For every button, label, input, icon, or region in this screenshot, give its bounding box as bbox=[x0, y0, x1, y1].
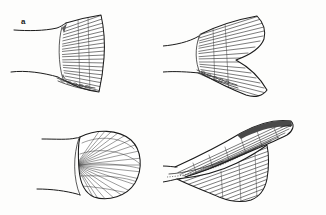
heterocercal-fin-drawing bbox=[163, 107, 326, 215]
forked-fin-drawing bbox=[163, 0, 326, 108]
rounded-fin-drawing bbox=[0, 107, 163, 215]
panel-heterocercal-caudal-fin: d bbox=[163, 107, 326, 215]
panel-forked-caudal-fin: b bbox=[163, 0, 326, 108]
panel-rounded-caudal-fin: c bbox=[0, 107, 163, 215]
panel-label-a: a bbox=[21, 18, 25, 26]
panel-truncate-caudal-fin: a bbox=[0, 0, 163, 108]
figure-root: a bbox=[0, 0, 326, 215]
